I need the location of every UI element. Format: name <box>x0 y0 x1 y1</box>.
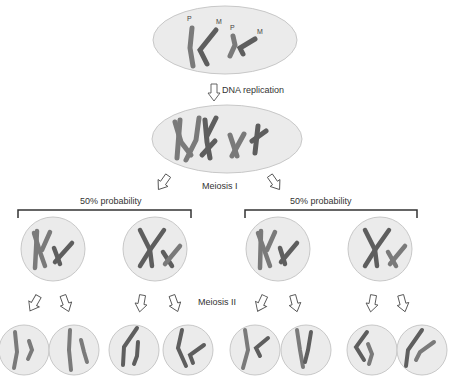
arrow-icon <box>265 172 285 193</box>
replicated-cell <box>152 105 302 173</box>
arrow-icon <box>25 293 44 314</box>
arrow-icon <box>57 293 74 313</box>
arrow-icon <box>134 294 149 313</box>
meiosis-1-label: Meiosis I <box>202 181 238 191</box>
meiosis2-cell-6 <box>281 325 331 375</box>
dna-replication-label: DNA replication <box>222 85 284 95</box>
meiosis2-cell-1 <box>0 325 49 375</box>
meiosis2-cell-4 <box>163 325 213 375</box>
bracket-right <box>245 210 417 218</box>
meiosis2-cell-5 <box>230 325 280 375</box>
arrow-icon <box>287 294 303 314</box>
paternal-label-2: P <box>230 24 235 31</box>
meiosis2-cell-3 <box>109 325 159 375</box>
meiosis1-cell-2 <box>123 217 187 281</box>
meiosis2-cell-2 <box>49 325 99 375</box>
parent-cell <box>153 6 297 74</box>
probability-label-left: 50% probability <box>80 196 142 206</box>
arrow-icon <box>166 293 183 313</box>
probability-label-right: 50% probability <box>290 196 352 206</box>
meiosis2-cell-8 <box>397 325 447 375</box>
arrow-icon <box>153 172 173 193</box>
arrow-icon <box>252 293 270 313</box>
meiosis-2-label: Meiosis II <box>198 297 236 307</box>
arrow-icon <box>395 294 411 314</box>
arrow-icon <box>365 294 380 313</box>
meiosis2-cell-7 <box>347 325 397 375</box>
maternal-label-1: M <box>216 18 222 25</box>
meiosis1-cell-3 <box>246 217 310 281</box>
maternal-label-2: M <box>257 28 263 35</box>
meiosis1-cell-1 <box>21 217 85 281</box>
bracket-left <box>18 210 191 218</box>
paternal-label-1: P <box>187 15 192 22</box>
meiosis1-cell-4 <box>348 217 412 281</box>
arrow-icon <box>208 84 220 101</box>
